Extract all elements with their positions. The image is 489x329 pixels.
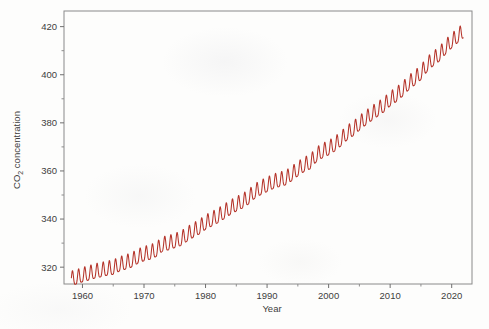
x-axis-title: Year: [262, 303, 281, 314]
x-axis-tick-labels: 1960197019801990200020102020: [72, 290, 462, 301]
axis-tick-label: 360: [41, 165, 57, 176]
axis-tick-label: 420: [41, 21, 57, 32]
x-axis-major-ticks: [82, 284, 451, 288]
axis-tick-label: 1990: [257, 290, 278, 301]
figure-canvas: 320340360380400420 196019701980199020002…: [0, 0, 489, 329]
axis-tick-label: 400: [41, 69, 57, 80]
axis-tick-label: 2000: [318, 290, 339, 301]
axis-tick-label: 340: [41, 213, 57, 224]
axis-tick-label: 2010: [380, 290, 401, 301]
plot-frame: [64, 11, 472, 284]
co2-data-line: [71, 26, 463, 284]
axis-tick-label: 380: [41, 117, 57, 128]
axis-tick-label: 1980: [195, 290, 216, 301]
y-axis-tick-labels: 320340360380400420: [41, 21, 57, 273]
axis-tick-label: 320: [41, 262, 57, 273]
co2-concentration-line-chart: 320340360380400420 196019701980199020002…: [0, 0, 489, 329]
axis-tick-label: 1960: [72, 290, 93, 301]
y-axis-title: CO2 concentration: [11, 111, 24, 189]
axis-tick-label: 2020: [441, 290, 462, 301]
axis-tick-label: 1970: [133, 290, 154, 301]
